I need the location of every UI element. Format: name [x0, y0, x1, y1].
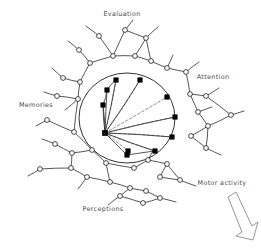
periphery-edge	[80, 63, 90, 82]
periphery-edge	[87, 177, 110, 182]
core-node	[170, 135, 174, 139]
periphery-node	[204, 146, 209, 151]
periphery-node	[144, 36, 149, 41]
periphery-node	[165, 66, 170, 71]
periphery-node	[158, 175, 163, 180]
core-node	[101, 103, 105, 107]
label-evaluation: Evaluation	[103, 10, 140, 18]
periphery-edge	[74, 99, 78, 132]
periphery-node	[144, 189, 149, 194]
core-node	[126, 149, 130, 153]
periphery-edge	[206, 96, 231, 115]
periphery-edge	[40, 168, 71, 169]
periphery-node	[104, 161, 109, 166]
periphery-edge	[106, 163, 110, 182]
periphery-node	[78, 80, 83, 85]
periphery-edge	[208, 115, 231, 126]
periphery-node	[132, 166, 137, 171]
periphery-node	[88, 61, 93, 66]
core-solid-spoke	[105, 133, 155, 151]
periphery-node	[111, 54, 116, 59]
periphery-node	[118, 194, 123, 199]
periphery-edge	[135, 38, 146, 56]
central-hub-node	[102, 130, 107, 135]
core-dashed-spoke	[105, 133, 128, 151]
periphery-node	[184, 70, 189, 75]
core-node	[153, 149, 157, 153]
periphery-node	[61, 76, 66, 81]
periphery-edge	[160, 177, 180, 180]
periphery-node	[141, 201, 146, 206]
periphery-edge	[113, 30, 125, 56]
core-solid-spoke	[105, 80, 140, 133]
periphery-node	[149, 59, 154, 64]
label-attention: Attention	[197, 73, 230, 81]
core-solid-spoke-group	[103, 80, 175, 155]
periphery-node	[204, 94, 209, 99]
core-node	[105, 88, 109, 92]
periphery-stub-group	[28, 20, 244, 205]
periphery-edge	[190, 94, 198, 112]
periphery-edge	[167, 164, 180, 180]
periphery-edge	[146, 38, 151, 61]
periphery-node	[90, 148, 95, 153]
periphery-edge	[47, 120, 74, 132]
diagram-canvas: EvaluationAttentionMemoriesMotor activit…	[0, 0, 261, 248]
core-node	[138, 78, 142, 82]
periphery-edge	[186, 72, 190, 94]
periphery-node	[97, 34, 102, 39]
periphery-node	[77, 48, 82, 53]
periphery-edge	[99, 36, 113, 56]
periphery-node	[76, 97, 81, 102]
periphery-edge	[120, 196, 143, 203]
periphery-edge	[72, 150, 92, 153]
periphery-edge	[125, 30, 146, 38]
periphery-node	[133, 54, 138, 59]
periphery-node	[165, 162, 170, 167]
core-node	[173, 115, 177, 119]
periphery-node	[38, 167, 43, 172]
periphery-node	[69, 166, 74, 171]
periphery-node	[189, 134, 194, 139]
periphery-node	[206, 124, 211, 129]
label-perceptions: Perceptions	[83, 205, 124, 213]
core-solid-spoke	[105, 133, 127, 155]
label-memories: Memories	[19, 101, 53, 109]
periphery-node	[45, 118, 50, 123]
periphery-edge	[148, 160, 167, 164]
core-dashed-spoke	[105, 97, 167, 133]
label-motor-activity: Motor activity	[198, 179, 247, 187]
periphery-edge	[55, 144, 72, 153]
arrow-icon	[228, 192, 258, 240]
periphery-edge	[92, 150, 106, 163]
periphery-node	[123, 28, 128, 33]
periphery-node	[128, 186, 133, 191]
periphery-node	[196, 110, 201, 115]
motor-activity-arrow	[228, 192, 258, 240]
periphery-edge	[74, 132, 92, 150]
periphery-node	[188, 92, 193, 97]
periphery-node	[158, 196, 163, 201]
periphery-edge	[57, 96, 78, 99]
periphery-node	[108, 180, 113, 185]
periphery-node	[146, 158, 151, 163]
periphery-node	[70, 151, 75, 156]
periphery-edge	[167, 68, 186, 72]
periphery-node	[72, 130, 77, 135]
label-group: EvaluationAttentionMemoriesMotor activit…	[19, 10, 247, 213]
periphery-edge	[191, 136, 206, 148]
periphery-edge	[106, 163, 134, 168]
periphery-edge	[206, 126, 208, 148]
periphery-edge	[110, 182, 130, 188]
network-diagram-svg: EvaluationAttentionMemoriesMotor activit…	[0, 0, 261, 248]
periphery-edge	[90, 56, 113, 63]
core-node	[165, 95, 169, 99]
core-dashed-spoke-group	[105, 80, 175, 151]
core-solid-spoke	[105, 133, 172, 137]
periphery-node	[229, 113, 234, 118]
core-solid-spoke	[105, 117, 175, 133]
periphery-node	[85, 175, 90, 180]
periphery-node	[53, 142, 58, 147]
core-node	[114, 78, 118, 82]
periphery-node	[55, 94, 60, 99]
